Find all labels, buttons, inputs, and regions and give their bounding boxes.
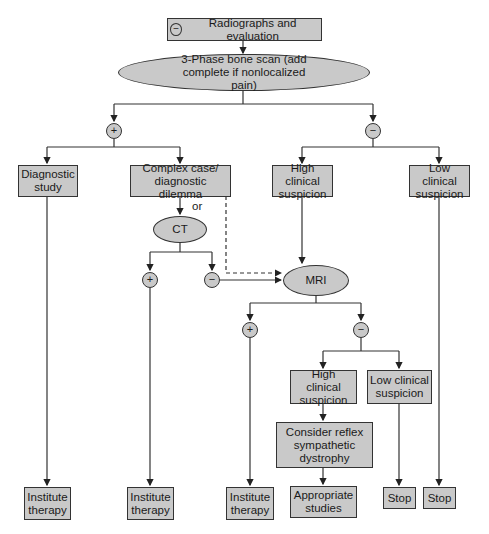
mri-negative-icon: − <box>353 322 369 338</box>
institute-therapy-label-1: Institute therapy <box>27 491 68 517</box>
stop-label-2: Stop <box>428 492 452 505</box>
diagnostic-study-label: Diagnostic study <box>21 168 75 194</box>
appropriate-studies-label: Appropriate studies <box>293 489 354 515</box>
high-clinical-suspicion-box-1: High clinical suspicion <box>272 165 333 197</box>
negative-sign-icon: − <box>170 23 182 36</box>
high-clinical-suspicion-label-1: High clinical suspicion <box>275 162 330 201</box>
consider-rsd-box: Consider reflex sympathetic dystrophy <box>276 422 373 468</box>
ct-label: CT <box>172 223 187 236</box>
low-clinical-suspicion-label-2: Low clinical suspicion <box>370 374 429 400</box>
high-clinical-suspicion-label-2: High clinical suspicion <box>293 368 354 407</box>
positive-result-icon: + <box>106 123 122 139</box>
low-clinical-suspicion-label-1: Low clinical suspicion <box>412 162 467 201</box>
institute-therapy-box-2: Institute therapy <box>127 487 174 520</box>
ct-ellipse: CT <box>153 216 207 243</box>
stop-box-1: Stop <box>383 487 416 509</box>
appropriate-studies-box: Appropriate studies <box>290 486 357 518</box>
mri-positive-icon: + <box>242 322 258 338</box>
complex-case-box: Complex case/ diagnostic dilemma <box>130 165 231 197</box>
stop-label-1: Stop <box>388 492 412 505</box>
low-clinical-suspicion-box-1: Low clinical suspicion <box>409 165 470 197</box>
diagnostic-study-box: Diagnostic study <box>18 165 78 197</box>
complex-case-label: Complex case/ diagnostic dilemma <box>137 162 224 201</box>
negative-result-icon: − <box>365 123 381 139</box>
or-label: or <box>192 200 202 212</box>
institute-therapy-box-1: Institute therapy <box>24 487 71 520</box>
stop-box-2: Stop <box>423 487 456 509</box>
radiographs-evaluation-box: − Radiographs and evaluation <box>167 18 322 41</box>
radiographs-evaluation-label: Radiographs and evaluation <box>186 17 319 43</box>
high-clinical-suspicion-box-2: High clinical suspicion <box>290 370 357 404</box>
ct-negative-icon: − <box>204 272 220 288</box>
ct-positive-icon: + <box>142 272 158 288</box>
mri-ellipse: MRI <box>283 265 349 296</box>
consider-rsd-label: Consider reflex sympathetic dystrophy <box>281 426 368 465</box>
mri-label: MRI <box>305 274 326 287</box>
bone-scan-label: 3-Phase bone scan (add complete if nonlo… <box>179 53 309 92</box>
institute-therapy-box-3: Institute therapy <box>226 487 274 520</box>
institute-therapy-label-3: Institute therapy <box>229 491 271 517</box>
bone-scan-ellipse: 3-Phase bone scan (add complete if nonlo… <box>118 54 370 91</box>
low-clinical-suspicion-box-2: Low clinical suspicion <box>367 370 432 404</box>
institute-therapy-label-2: Institute therapy <box>130 491 171 517</box>
